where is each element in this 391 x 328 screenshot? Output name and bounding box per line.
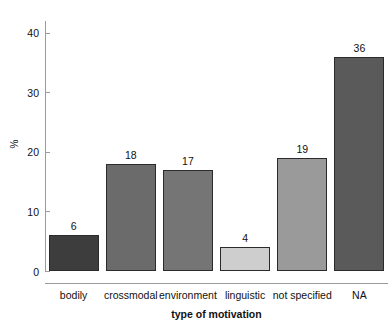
bar-value-label: 36: [334, 42, 384, 54]
bar-value-label: 19: [277, 143, 327, 155]
plot-area: 6181741936: [45, 21, 388, 271]
y-axis-tick-label: 0: [33, 266, 39, 278]
x-axis-category-label: NA: [309, 289, 391, 301]
y-axis-title: %: [2, 131, 28, 157]
bar[interactable]: [106, 164, 156, 271]
bar-chart: % 010203040 6181741936 bodilycrossmodale…: [0, 0, 391, 328]
y-axis-tick: 0: [45, 271, 50, 272]
y-axis-tick-label: 20: [27, 146, 39, 158]
bar[interactable]: [334, 57, 384, 271]
bar-group[interactable]: 6: [49, 21, 99, 271]
bar-group[interactable]: 4: [220, 21, 270, 271]
bar-group[interactable]: 19: [277, 21, 327, 271]
x-axis-line: [45, 283, 388, 284]
bar-group[interactable]: 36: [334, 21, 384, 271]
bar-value-label: 6: [49, 220, 99, 232]
y-axis-tick-label: 30: [27, 87, 39, 99]
y-axis-tick-label: 40: [27, 27, 39, 39]
bar-value-label: 4: [220, 232, 270, 244]
bar[interactable]: [163, 170, 213, 271]
y-axis-tick-label: 10: [27, 206, 39, 218]
bar-group[interactable]: 18: [106, 21, 156, 271]
x-axis-title: type of motivation: [45, 308, 388, 320]
bar[interactable]: [49, 235, 99, 271]
bar[interactable]: [277, 158, 327, 271]
bar-value-label: 18: [106, 149, 156, 161]
bar-value-label: 17: [163, 155, 213, 167]
bar[interactable]: [220, 247, 270, 271]
y-axis-tick-mark: [45, 271, 50, 272]
bar-group[interactable]: 17: [163, 21, 213, 271]
